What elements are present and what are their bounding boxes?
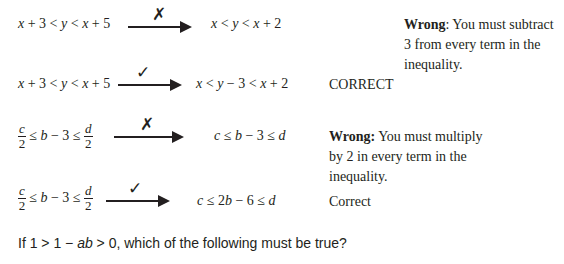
transformed-inequality: c ≤ b − 3 ≤ d [214, 128, 286, 144]
explanation-note: CORRECT [329, 75, 394, 95]
transform-arrow [106, 200, 168, 202]
note-text: CORRECT [329, 77, 394, 92]
explanation-note: Wrong: You must subtract 3 from every te… [404, 15, 564, 75]
transform-arrow [128, 26, 190, 28]
transformed-inequality: x < y − 3 < x + 2 [196, 76, 288, 92]
note-label: Wrong [404, 17, 446, 32]
explanation-note: Correct [329, 192, 371, 212]
transformed-inequality: c ≤ 2b − 6 ≤ d [197, 193, 276, 209]
note-text: Correct [329, 194, 371, 209]
transform-arrow [118, 84, 180, 86]
cross-icon: ✗ [140, 116, 154, 133]
original-inequality: x + 3 < y < x + 5 [18, 76, 110, 92]
original-inequality: c2 ≤ b − 3 ≤ d2 [18, 184, 93, 213]
transformed-inequality: x < y < x + 2 [211, 16, 281, 32]
transform-arrow [114, 136, 182, 138]
fraction: d2 [84, 184, 93, 213]
fraction: c2 [18, 184, 26, 213]
fraction: c2 [18, 122, 26, 151]
check-icon: ✓ [136, 64, 150, 81]
original-inequality: c2 ≤ b − 3 ≤ d2 [18, 122, 93, 151]
cross-icon: ✗ [152, 6, 166, 23]
fraction: d2 [84, 122, 93, 151]
original-inequality: x + 3 < y < x + 5 [18, 16, 110, 32]
note-label: Wrong: [329, 129, 375, 144]
question-text: If 1 > 1 − ab > 0, which of the followin… [18, 235, 347, 251]
explanation-note: Wrong: You must multiply by 2 in every t… [329, 127, 494, 187]
check-icon: ✓ [128, 180, 142, 197]
